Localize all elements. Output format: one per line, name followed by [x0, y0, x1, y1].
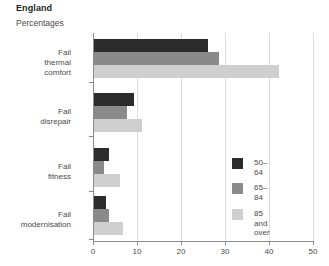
y-category-label: Fail disrepair [40, 107, 71, 127]
legend-swatch-icon [232, 183, 243, 194]
x-tick-label: 20 [177, 247, 186, 256]
x-tick-label: 30 [221, 247, 230, 256]
legend-label: 65–84 [254, 183, 267, 202]
x-tick-mark [269, 241, 270, 245]
x-tick-mark [225, 241, 226, 245]
x-tick-label: 10 [133, 247, 142, 256]
bar [94, 222, 123, 235]
bar [94, 93, 134, 106]
y-category-label: Fail modernisation [21, 210, 71, 230]
gridline [313, 33, 314, 241]
bar [94, 119, 142, 132]
page-title: England [16, 3, 52, 13]
x-tick-mark [313, 241, 314, 245]
bar [94, 148, 109, 161]
bar [94, 209, 109, 222]
y-category-label: Fail thermal comfort [44, 48, 71, 78]
x-tick-label: 40 [265, 247, 274, 256]
x-tick-mark [137, 241, 138, 245]
x-tick-mark [181, 241, 182, 245]
y-group-tick [89, 82, 93, 83]
x-axis-line [93, 241, 313, 242]
legend-item[interactable]: 65–84 [232, 183, 267, 202]
y-group-tick [89, 191, 93, 192]
legend-swatch-icon [232, 209, 243, 220]
y-group-tick [89, 239, 93, 240]
legend-swatch-icon [232, 158, 243, 169]
chart-container: England Percentages 01020304050 Fail the… [0, 0, 329, 266]
x-tick-label: 50 [309, 247, 318, 256]
bar [94, 106, 127, 119]
bar [94, 161, 104, 174]
legend-label: 50–64 [254, 158, 267, 177]
bar [94, 52, 219, 65]
chart-subtitle: Percentages [16, 18, 64, 28]
bar [94, 65, 279, 78]
plot-area: 01020304050 Fail thermal comfortFail dis… [93, 33, 313, 241]
legend-item[interactable]: 50–64 [232, 158, 267, 177]
y-group-tick [89, 136, 93, 137]
legend-label: 85 and over [254, 209, 270, 238]
bar [94, 39, 208, 52]
x-tick-label: 0 [91, 247, 95, 256]
y-category-label: Fail fitness [48, 162, 71, 182]
bar [94, 196, 106, 209]
bar [94, 174, 120, 187]
x-tick-mark [93, 241, 94, 245]
legend-item[interactable]: 85 and over [232, 209, 270, 238]
